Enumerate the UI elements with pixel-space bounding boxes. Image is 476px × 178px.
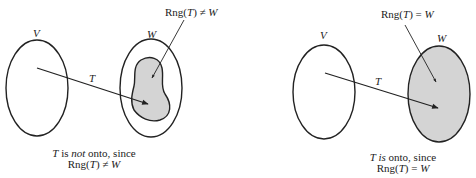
- right-panel: V W T Rng(T) = W T is onto, since Rng(T)…: [293, 8, 470, 175]
- set-w-label: W: [437, 32, 447, 44]
- range-callout-label: Rng(T) ≠ W: [165, 6, 218, 19]
- map-t-label: T: [375, 75, 382, 87]
- range-callout-label: Rng(T) = W: [381, 8, 435, 21]
- set-v-label: V: [320, 29, 328, 41]
- map-t-label: T: [89, 72, 96, 84]
- set-v-ellipse: [293, 45, 355, 139]
- set-w-label: W: [147, 28, 157, 40]
- set-v-ellipse: [6, 40, 68, 136]
- left-panel: V W T Rng(T) ≠ W T is not onto, since Rn…: [6, 6, 218, 171]
- range-blob: [132, 58, 170, 121]
- set-v-label: V: [33, 27, 41, 39]
- caption-line-2: Rng(T) ≠ W: [68, 158, 121, 171]
- caption-line-2: Rng(T) = W: [377, 162, 431, 175]
- onto-diagram: V W T Rng(T) ≠ W T is not onto, since Rn…: [0, 0, 476, 178]
- set-w-ellipse-filled: [408, 46, 470, 142]
